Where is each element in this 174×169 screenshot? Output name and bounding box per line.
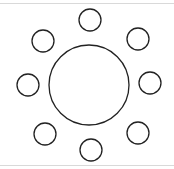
satellite-circle	[127, 122, 149, 144]
satellite-circle	[79, 9, 101, 31]
center-circle	[49, 45, 129, 125]
circle-diagram	[0, 0, 174, 169]
satellite-circle	[17, 74, 39, 96]
satellite-circle	[139, 72, 161, 94]
satellite-circle	[127, 28, 149, 50]
satellite-circle	[32, 30, 54, 52]
satellite-circle	[80, 139, 102, 161]
satellite-circle	[34, 123, 56, 145]
